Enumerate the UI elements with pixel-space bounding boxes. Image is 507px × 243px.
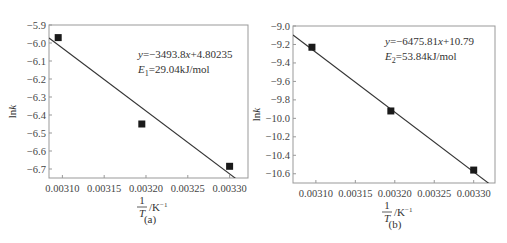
x-tick-label: 0.00315 — [87, 183, 121, 194]
figure-caption-cropped — [150, 231, 380, 243]
y-tick-label: −10.0 — [266, 113, 290, 124]
fit-equation: y=−6475.81x+10.79 — [384, 35, 474, 47]
x-tick-label: 0.00315 — [338, 188, 372, 199]
y-tick-label: −6.1 — [27, 56, 46, 67]
activation-energy: E2=53.84kJ/mol — [384, 50, 457, 65]
y-tick-label: −6.3 — [27, 92, 46, 103]
panel-subtitle: (a) — [144, 213, 157, 226]
fit-equation: y=−3493.8x+4.80235 — [137, 48, 233, 60]
x-tick-label: 0.00310 — [299, 188, 333, 199]
x-tick-label: 0.00310 — [45, 183, 79, 194]
y-tick-label: −9.8 — [271, 94, 290, 105]
svg-text:1: 1 — [384, 199, 390, 211]
data-point-marker — [55, 34, 62, 41]
data-point-marker — [387, 107, 394, 114]
data-point-marker — [226, 163, 233, 170]
panel-subtitle: (b) — [389, 218, 402, 231]
activation-energy: E1=29.04kJ/mol — [137, 63, 210, 78]
y-tick-label: −6.6 — [27, 146, 46, 157]
y-tick-label: −6.2 — [27, 74, 46, 85]
y-tick-label: −10.2 — [266, 131, 290, 142]
x-tick-label: 0.00330 — [213, 183, 247, 194]
y-tick-label: −9.2 — [271, 39, 290, 50]
y-tick-label: −9.6 — [271, 76, 290, 87]
svg-text:1: 1 — [139, 194, 145, 206]
y-tick-label: −6.0 — [27, 38, 46, 49]
y-axis: −9.0−9.2−9.4−9.6−9.8−10.0−10.2−10.4−10.6… — [250, 21, 296, 180]
y-tick-label: −6.7 — [27, 164, 46, 175]
fit-annotation: y=−3493.8x+4.80235E1=29.04kJ/mol — [137, 48, 233, 78]
x-tick-label: 0.00325 — [417, 188, 451, 199]
y-tick-label: −10.4 — [266, 150, 291, 161]
data-point-marker — [138, 121, 145, 128]
svg-text:/K−1: /K−1 — [149, 201, 168, 213]
plot-frame — [293, 26, 495, 183]
x-tick-label: 0.00330 — [457, 188, 491, 199]
y-tick-label: −6.4 — [27, 110, 47, 121]
y-tick-label: −9.0 — [271, 21, 290, 32]
data-point-marker — [308, 44, 315, 51]
chart-panel-b: −9.0−9.2−9.4−9.6−9.8−10.0−10.2−10.4−10.6… — [250, 21, 495, 232]
data-point-marker — [470, 167, 477, 174]
x-tick-label: 0.00325 — [171, 183, 205, 194]
y-axis: −5.9−6.0−6.1−6.2−6.3−6.4−6.5−6.6−6.7lnk — [6, 20, 52, 175]
y-axis-label: lnk — [6, 104, 18, 119]
y-tick-label: −5.9 — [27, 20, 46, 31]
y-tick-label: −9.4 — [271, 57, 291, 68]
x-tick-label: 0.00320 — [129, 183, 163, 194]
chart-panel-a: −5.9−6.0−6.1−6.2−6.3−6.4−6.5−6.6−6.7lnk0… — [6, 20, 248, 227]
fit-annotation: y=−6475.81x+10.79E2=53.84kJ/mol — [384, 35, 474, 65]
y-axis-label: lnk — [250, 107, 262, 122]
fit-line — [49, 38, 248, 188]
y-tick-label: −10.6 — [266, 168, 290, 179]
kinetics-figure: −5.9−6.0−6.1−6.2−6.3−6.4−6.5−6.6−6.7lnk0… — [0, 0, 507, 243]
x-tick-label: 0.00320 — [378, 188, 412, 199]
svg-text:/K−1: /K−1 — [394, 206, 413, 218]
y-tick-label: −6.5 — [27, 128, 46, 139]
